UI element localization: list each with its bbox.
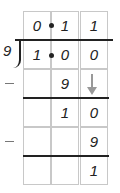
decimal-point-quotient bbox=[49, 23, 54, 28]
dividend-digit: 0 bbox=[80, 40, 108, 69]
remainder-cell bbox=[23, 98, 51, 127]
subtract-digit: 9 bbox=[80, 127, 108, 156]
decimal-point-dividend bbox=[49, 53, 54, 58]
remainder-digit: 0 bbox=[80, 98, 108, 127]
remainder-cell bbox=[23, 156, 51, 185]
quotient-digit: 0 bbox=[23, 11, 51, 40]
bring-down-arrow-icon bbox=[91, 74, 93, 88]
subtract-cell bbox=[51, 127, 79, 156]
subtract-cell bbox=[23, 69, 51, 98]
divisor: 9 bbox=[3, 42, 11, 59]
dividend-digit: 0 bbox=[51, 40, 79, 69]
dividend-digit: 1 bbox=[23, 40, 51, 69]
subtraction-line bbox=[23, 155, 109, 157]
remainder-digit: 1 bbox=[51, 98, 79, 127]
division-bracket bbox=[13, 40, 21, 68]
remainder-cell bbox=[51, 156, 79, 185]
quotient-digit: 1 bbox=[51, 11, 79, 40]
division-bar bbox=[15, 39, 113, 41]
quotient-digit: 1 bbox=[80, 11, 108, 40]
subtract-digit: 9 bbox=[51, 69, 79, 98]
arrowhead-icon bbox=[87, 87, 97, 95]
subtraction-line bbox=[23, 97, 109, 99]
final-remainder-digit: 1 bbox=[80, 156, 108, 185]
minus-sign bbox=[5, 141, 14, 142]
subtract-cell bbox=[23, 127, 51, 156]
minus-sign bbox=[5, 83, 14, 84]
